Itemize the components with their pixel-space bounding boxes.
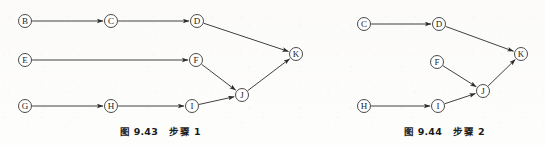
graph-node-j: J — [477, 85, 490, 98]
node-label-d: D — [436, 19, 443, 29]
figure-step-2: CDFHIJK 图 9.44步骤 2 — [320, 0, 545, 145]
node-label-h: H — [361, 101, 368, 111]
figure-1-caption-step: 步骤 1 — [169, 126, 201, 137]
graph-node-k: K — [515, 48, 528, 61]
node-label-c: C — [361, 19, 367, 29]
graph-node-c: C — [358, 18, 371, 31]
edge-i-to-j — [445, 94, 476, 104]
graph-node-d: D — [433, 18, 446, 31]
figure-2-caption-step: 步骤 2 — [453, 126, 485, 137]
edge-j-to-k — [488, 60, 515, 87]
graph-node-h: H — [358, 100, 371, 113]
graph-node-i: I — [432, 100, 445, 113]
node-layer: CDFHIJK — [358, 18, 528, 113]
edge-f-to-j — [443, 66, 476, 87]
figure-1-caption: 图 9.43步骤 1 — [120, 124, 201, 138]
figure-2-caption: 图 9.44步骤 2 — [404, 124, 485, 138]
node-label-k: K — [518, 49, 525, 59]
node-label-i: I — [437, 101, 440, 111]
figure-page: BCDEFGHIJK 图 9.43步骤 1 CDFHIJK 图 9.44步骤 2 — [0, 0, 545, 145]
node-label-f: F — [434, 57, 439, 67]
directed-graph-step-2: CDFHIJK — [0, 0, 545, 120]
figure-2-caption-number: 图 9.44 — [404, 126, 442, 137]
node-label-j: J — [481, 86, 485, 96]
figure-1-caption-number: 图 9.43 — [120, 126, 158, 137]
edge-d-to-k — [446, 26, 514, 51]
graph-node-f: F — [431, 56, 444, 69]
